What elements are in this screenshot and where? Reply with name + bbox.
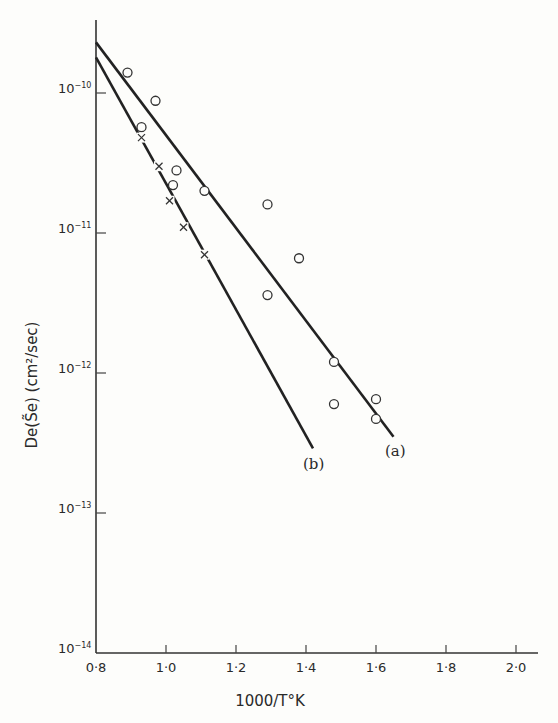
data-point-circle	[123, 68, 132, 77]
y-axis-label: De(S̃e) (cm²/sec)	[22, 255, 42, 515]
data-point-circle	[295, 254, 304, 263]
data-point-circle	[330, 400, 339, 409]
y-tick-label: 10−12	[58, 361, 91, 376]
x-axis-label: 1000/T°K	[235, 692, 305, 710]
x-tick-label: 1·2	[226, 660, 247, 675]
data-point-circle	[172, 166, 181, 175]
y-tick-label: 10−10	[58, 81, 91, 96]
data-point-circle	[263, 291, 272, 300]
data-point-cross	[165, 196, 175, 206]
x-tick-label: 2·0	[506, 660, 527, 675]
x-tick-label: 1·4	[296, 660, 317, 675]
x-tick-label: 1·6	[366, 660, 387, 675]
data-point-circle	[137, 123, 146, 132]
x-tick-label: 1·0	[156, 660, 177, 675]
data-point-circle	[169, 181, 178, 190]
fit-line-a	[96, 42, 394, 436]
data-point-cross	[154, 161, 164, 171]
data-point-circle	[263, 200, 272, 209]
data-point-circle	[330, 357, 339, 366]
line-b-label: (b)	[303, 455, 324, 473]
y-tick-label: 10−13	[58, 501, 91, 516]
x-tick-label: 0·8	[86, 660, 107, 675]
line-a-label: (a)	[385, 442, 406, 460]
data-point-cross	[200, 250, 210, 260]
data-point-cross	[137, 133, 147, 143]
y-tick-label: 10−14	[58, 641, 91, 656]
x-tick-label: 1·8	[436, 660, 457, 675]
data-point-circle	[372, 414, 381, 423]
y-tick-label: 10−11	[58, 221, 91, 236]
data-point-circle	[372, 395, 381, 404]
data-point-cross	[179, 222, 189, 232]
data-point-circle	[200, 186, 209, 195]
data-point-circle	[151, 96, 160, 105]
